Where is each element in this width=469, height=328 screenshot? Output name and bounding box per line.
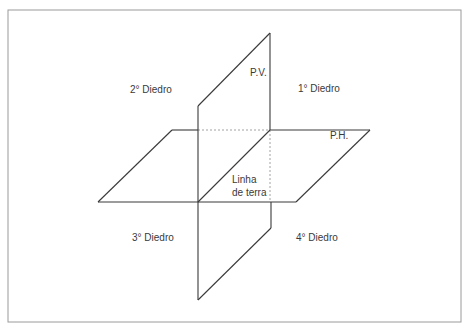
dihedral-1-label: 1° Diedro — [298, 83, 340, 94]
dihedral-3-label: 3° Diedro — [132, 232, 174, 243]
ground-line-label-2: de terra — [232, 187, 267, 198]
ground-line-label-1: Linha — [232, 174, 257, 185]
horizontal-plane-label: P.H. — [330, 130, 348, 141]
dihedral-diagram: P.V. P.H. Linha de terra 2° Diedro 1° Di… — [0, 0, 469, 328]
dihedral-2-label: 2° Diedro — [130, 84, 172, 95]
dihedral-4-label: 4° Diedro — [296, 232, 338, 243]
vertical-plane-label: P.V. — [250, 67, 267, 78]
